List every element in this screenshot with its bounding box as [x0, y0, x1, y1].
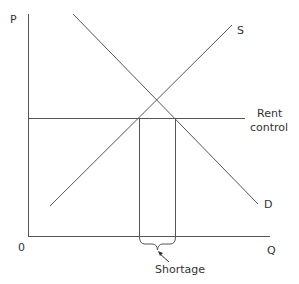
arrow-head-icon: [158, 251, 163, 256]
shortage-label: Shortage: [155, 263, 205, 276]
supply-curve: [50, 25, 232, 206]
origin-label: 0: [18, 241, 25, 254]
demand-curve: [73, 14, 258, 204]
price-axis-label: P: [10, 13, 17, 26]
supply-demand-diagram: P 0 Q S D Rent control Shortage: [0, 0, 299, 284]
diagram-canvas: [0, 0, 299, 284]
quantity-axis-label: Q: [267, 244, 276, 257]
supply-label: S: [237, 24, 244, 37]
rent-control-label-line2: control: [250, 121, 288, 134]
shortage-brace: [140, 237, 176, 250]
rent-control-label-line1: Rent: [257, 107, 282, 120]
demand-label: D: [264, 198, 272, 211]
